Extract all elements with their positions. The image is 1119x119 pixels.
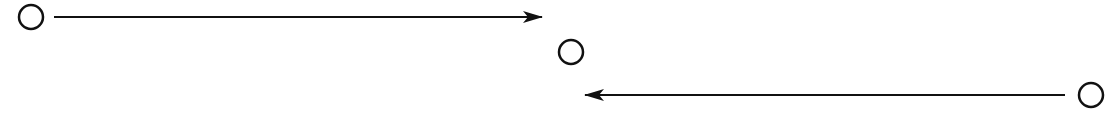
node-left-circle-icon xyxy=(19,5,43,29)
node-middle-circle-icon xyxy=(559,40,583,64)
flow-diagram xyxy=(0,0,1119,119)
node-right-circle-icon xyxy=(1079,83,1103,107)
